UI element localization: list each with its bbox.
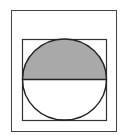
shaded-upper-semicircle [23, 39, 107, 80]
diagram-canvas [0, 0, 121, 138]
